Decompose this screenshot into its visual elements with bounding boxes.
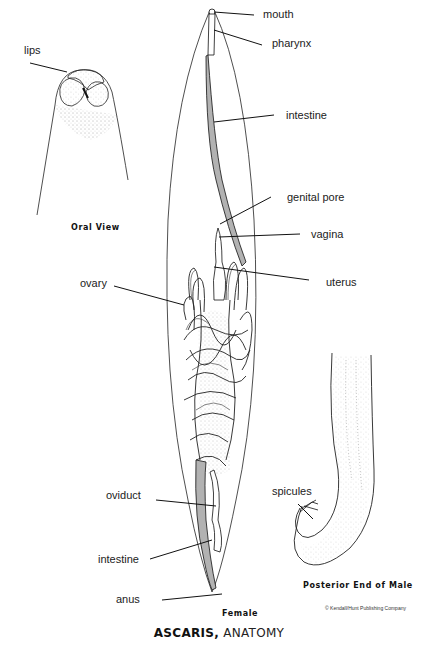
label-genital-pore: genital pore [287,192,345,203]
label-pharynx: pharynx [272,38,311,49]
male-posterior-drawing [294,353,374,565]
label-mouth: mouth [263,9,294,20]
label-lips: lips [24,45,41,56]
caption-posterior-end-of-male: Posterior End of Male [303,582,413,590]
label-oviduct: oviduct [106,490,141,501]
label-uterus: uterus [326,277,357,288]
copyright-notice: © Kendall/Hunt Publishing Company [325,606,406,611]
title-genus: ASCARIS, [154,626,219,640]
diagram-title: ASCARIS, ANATOMY [0,626,438,640]
oral-view-drawing [30,63,128,215]
label-intestine-lower: intestine [98,554,139,565]
ascaris-anatomy-diagram: lips Oral View mouth pharynx intestine g… [0,0,438,665]
label-ovary: ovary [80,278,107,289]
label-anus: anus [116,594,140,605]
caption-female: Female [222,610,258,618]
label-intestine-upper: intestine [286,110,327,121]
title-subject: ANATOMY [223,626,284,640]
label-vagina: vagina [311,229,343,240]
caption-oral-view: Oral View [71,224,120,232]
label-spicules: spicules [272,486,312,497]
anatomy-illustration [0,0,438,665]
female-drawing [114,9,309,600]
